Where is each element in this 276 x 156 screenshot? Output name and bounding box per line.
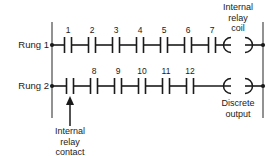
rung-1-label: Rung 1: [6, 40, 49, 50]
internal-relay-contact-label-line-1: Internal: [35, 126, 105, 137]
contact-6-label: 6: [186, 25, 191, 35]
contact-10-label: 10: [137, 66, 146, 76]
rung-2-label: Rung 2: [6, 81, 49, 91]
contact-11-label: 11: [162, 66, 171, 76]
contact-8-label: 8: [92, 66, 97, 76]
internal-relay-coil-label-line-2: relay: [208, 13, 268, 24]
contact-5[interactable]: [161, 37, 168, 53]
internal-relay-coil-label-line-1: Internal: [208, 2, 268, 13]
contact-2[interactable]: [89, 37, 96, 53]
contact-9-label: 9: [116, 66, 121, 76]
internal-relay-contact-label-line-3: contact: [35, 147, 105, 156]
internal-relay-contact-label: Internal relay contact: [35, 126, 105, 156]
ladder-logic-diagram: Rung 1 Rung 2 1 2 3 4 5 6 7 8 9 10 11 12…: [0, 0, 276, 156]
internal-relay-coil-label: Internal relay coil: [208, 2, 268, 34]
internal-relay-contact-label-line-2: relay: [35, 137, 105, 148]
discrete-output-label-line-2: output: [208, 109, 268, 120]
rung-1-left-node: [50, 43, 54, 47]
contact-5-label: 5: [162, 25, 167, 35]
rung-1-right-node: [261, 43, 265, 47]
contact-internal-relay[interactable]: [67, 78, 74, 94]
rung-2-group: [50, 78, 265, 94]
contact-4-label: 4: [138, 25, 143, 35]
rung-2-right-node: [261, 84, 265, 88]
contact-11[interactable]: [163, 78, 170, 94]
contact-9[interactable]: [115, 78, 122, 94]
contact-4[interactable]: [137, 37, 144, 53]
rung-1-group: [50, 37, 265, 53]
contact-3[interactable]: [113, 37, 120, 53]
contact-7[interactable]: [209, 37, 216, 53]
internal-relay-coil-label-line-3: coil: [208, 23, 268, 34]
discrete-output-label-line-1: Discrete: [208, 98, 268, 109]
contact-1-label: 1: [66, 25, 71, 35]
contact-12-label: 12: [185, 66, 194, 76]
contact-12[interactable]: [187, 78, 194, 94]
contact-2-label: 2: [90, 25, 95, 35]
rung-2-left-node: [50, 84, 54, 88]
contact-3-label: 3: [114, 25, 119, 35]
internal-relay-contact-arrow: [66, 96, 74, 126]
contact-1[interactable]: [65, 37, 72, 53]
discrete-output-label: Discrete output: [208, 98, 268, 119]
contact-8[interactable]: [91, 78, 98, 94]
contact-6[interactable]: [185, 37, 192, 53]
contact-10[interactable]: [139, 78, 146, 94]
